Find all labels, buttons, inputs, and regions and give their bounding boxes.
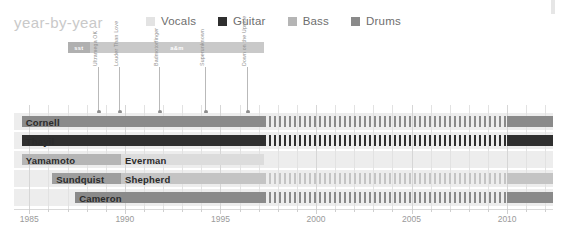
year-by-year-timeline-chart: year-by-year VocalsGuitarBassDrums ssta&… [0, 0, 563, 239]
album-title-label: Louder Than Love [113, 21, 119, 67]
timeline-bar-cameron [264, 192, 507, 203]
record-label-bar: ssta&m [0, 42, 563, 53]
album-title-label: Ultramega OK [92, 31, 98, 67]
axis-tick [297, 209, 298, 212]
axis-tick-label: 2000 [307, 214, 326, 224]
axis-line [14, 209, 553, 210]
member-name-label: Everman [125, 156, 167, 166]
legend-item-bass: Bass [288, 15, 329, 27]
chart-header: year-by-year VocalsGuitarBassDrums [0, 12, 563, 38]
axis-tick [278, 209, 279, 212]
axis-tick [335, 209, 336, 212]
legend-label: Vocals [161, 15, 196, 27]
record-label-text: sst [74, 45, 83, 51]
axis-tick [48, 209, 49, 212]
x-axis: 198519901995200020052010 [0, 209, 563, 233]
album-marker-stem [247, 67, 248, 113]
legend-label: Guitar [233, 15, 266, 27]
axis-tick [392, 209, 393, 212]
axis-tick [431, 209, 432, 212]
axis-tick [163, 209, 164, 212]
album-marker-stem [159, 67, 160, 113]
member-name-label: Yamamoto [26, 156, 76, 166]
axis-tick [488, 209, 489, 212]
square-swatch [351, 17, 360, 26]
axis-tick [144, 209, 145, 212]
album-title-label: Down on the Upside [241, 16, 247, 67]
axis-tick [469, 209, 470, 212]
timeline-plot-area: CornellThayilYamamotoEvermanSundquistShe… [0, 113, 563, 209]
axis-tick [68, 209, 69, 212]
member-name-label: Cornell [26, 118, 60, 128]
axis-tick [545, 209, 546, 212]
timeline-bar-shepherd [507, 173, 553, 184]
album-title-label: Badmotorfinger [153, 28, 159, 67]
axis-tick [201, 209, 202, 212]
legend-label: Bass [303, 15, 329, 27]
timeline-bar-thayil [22, 135, 265, 146]
timeline-bar-cornell [507, 116, 553, 127]
record-label-segment-sst: sst [68, 42, 91, 53]
timeline-bar-shepherd [264, 173, 507, 184]
member-name-label: Cameron [79, 194, 122, 204]
axis-tick [240, 209, 241, 212]
axis-tick-label: 2005 [402, 214, 421, 224]
axis-tick-label: 1990 [115, 214, 134, 224]
axis-tick [106, 209, 107, 212]
album-marker-stem [205, 67, 206, 113]
legend-item-vocals: Vocals [146, 15, 196, 27]
axis-tick-label: 1995 [211, 214, 230, 224]
axis-tick [182, 209, 183, 212]
axis-tick [450, 209, 451, 212]
axis-tick [259, 209, 260, 212]
axis-tick-label: 2010 [498, 214, 517, 224]
timeline-bar-cameron [507, 192, 553, 203]
album-title-label: Superunknown [199, 29, 205, 67]
square-swatch [146, 17, 155, 26]
member-name-label: Thayil [26, 137, 55, 147]
member-name-label: Shepherd [125, 175, 170, 185]
timeline-bar-thayil [507, 135, 553, 146]
record-label-text: a&m [171, 45, 184, 51]
axis-tick-label: 1985 [20, 214, 39, 224]
axis-tick [354, 209, 355, 212]
timeline-bar-thayil [264, 135, 507, 146]
axis-tick [373, 209, 374, 212]
album-marker-stem [98, 67, 99, 113]
legend-item-drums: Drums [351, 15, 401, 27]
axis-tick [87, 209, 88, 212]
album-marker-stem [119, 67, 120, 113]
square-swatch [288, 17, 297, 26]
album-release-markers: Ultramega OKLouder Than LoveBadmotorfing… [0, 55, 563, 113]
page-title: year-by-year [14, 14, 103, 31]
member-name-label: Sundquist [56, 175, 104, 185]
corner-marker [551, 0, 555, 14]
legend: VocalsGuitarBassDrums [146, 15, 423, 27]
axis-tick [526, 209, 527, 212]
timeline-bar-cornell [264, 116, 507, 127]
square-swatch [218, 17, 227, 26]
legend-label: Drums [366, 15, 401, 27]
